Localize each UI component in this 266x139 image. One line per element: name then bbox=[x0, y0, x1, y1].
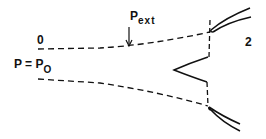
upper-nozzle-lip bbox=[211, 8, 251, 32]
pressure-equation-label: P = PO bbox=[14, 58, 51, 70]
nozzle-flow-diagram: 0 P = PO Pext 2 bbox=[0, 0, 266, 139]
exit-plane-lower bbox=[207, 82, 208, 106]
station-2-label: 2 bbox=[245, 36, 252, 48]
exit-plane-upper bbox=[209, 20, 210, 57]
upper-jet-boundary bbox=[38, 32, 210, 49]
pressure-equation-main: P = P bbox=[14, 57, 43, 71]
lower-nozzle-lip bbox=[209, 107, 240, 131]
external-pressure-label: Pext bbox=[130, 10, 155, 22]
shock-wedge bbox=[174, 57, 208, 82]
pressure-equation-subscript: O bbox=[43, 64, 51, 75]
lower-jet-boundary bbox=[38, 79, 208, 106]
station-0-label: 0 bbox=[37, 34, 44, 46]
pext-main: P bbox=[130, 9, 138, 23]
pext-subscript: ext bbox=[138, 15, 155, 26]
